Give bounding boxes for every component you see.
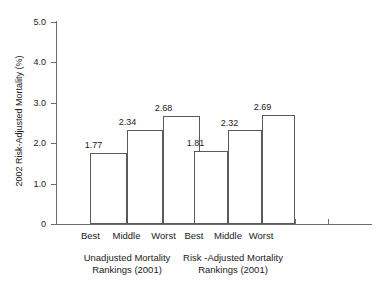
bar-group1-best	[90, 153, 127, 225]
bar-value-group2-best: 1.81	[178, 139, 213, 148]
x-category-label-group2-middle: Middle	[211, 230, 245, 241]
bar-value-group1-worst: 2.68	[145, 104, 182, 113]
bar-value-group2-worst: 2.69	[245, 103, 280, 112]
y-tick-label-3: 3.0	[33, 99, 46, 108]
y-tick-label-2: 2.0	[33, 139, 46, 148]
x-category-label-group1-middle: Middle	[108, 230, 145, 241]
group-caption-risk-adjusted: Risk -Adjusted Mortality Rankings (2001)	[163, 252, 303, 276]
x-category-label-group1-best: Best	[72, 230, 109, 241]
x-category-label-group2-best: Best	[177, 230, 211, 241]
x-axis-line	[56, 224, 372, 225]
bar-group2-worst	[262, 115, 295, 224]
bar-value-group2-middle: 2.32	[212, 119, 247, 128]
bar-value-group1-middle: 2.34	[109, 118, 146, 127]
bar-value-group1-best: 1.77	[75, 141, 112, 150]
y-tick-label-0: 0	[41, 220, 46, 229]
cropped-header-text	[0, 0, 378, 4]
y-axis-title: 2002 Risk-Adjusted Mortality (%)	[14, 21, 24, 221]
y-tick-label-1: 1.0	[33, 180, 46, 189]
bar-group2-best	[194, 151, 228, 224]
bar-chart: 2002 Risk-Adjusted Mortality (%) 5.0 4.0…	[0, 0, 378, 291]
group-caption-risk-adjusted-line1: Risk -Adjusted Mortality	[163, 252, 303, 264]
bar-group1-middle	[127, 130, 163, 225]
y-tick-label-4: 4.0	[33, 58, 46, 67]
x-category-label-group2-worst: Worst	[244, 230, 278, 241]
y-tick-label-5: 5.0	[33, 18, 46, 27]
bar-group2-middle	[228, 130, 262, 224]
group-caption-risk-adjusted-line2: Rankings (2001)	[163, 264, 303, 276]
